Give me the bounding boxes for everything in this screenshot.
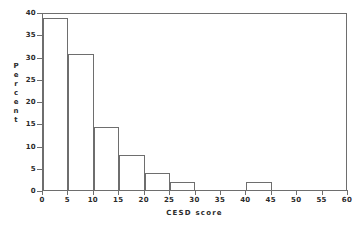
y-axis-tick-label: 40 — [26, 9, 36, 17]
y-axis-tick-label: 15 — [26, 120, 36, 128]
y-axis-tick — [37, 169, 42, 170]
y-axis-tick — [37, 102, 42, 103]
x-axis-tick — [271, 191, 272, 195]
x-axis-tick — [245, 191, 246, 195]
x-axis-tick-label: 40 — [240, 196, 250, 204]
x-axis-tick-label: 45 — [266, 196, 276, 204]
y-axis-tick — [37, 147, 42, 148]
y-axis-title: Percent — [11, 62, 21, 125]
plot-area — [42, 13, 347, 191]
x-axis-tick — [322, 191, 323, 195]
x-axis-tick — [42, 191, 43, 195]
y-axis-tick — [37, 124, 42, 125]
x-axis-tick-label: 50 — [291, 196, 301, 204]
x-axis-tick — [296, 191, 297, 195]
x-axis-tick-label: 0 — [39, 196, 44, 204]
y-axis-tick-label: 25 — [26, 76, 36, 84]
x-axis-tick-label: 25 — [164, 196, 174, 204]
x-axis-tick-label: 15 — [113, 196, 123, 204]
x-axis-tick — [93, 191, 94, 195]
x-axis-tick — [118, 191, 119, 195]
x-axis-tick-label: 5 — [65, 196, 70, 204]
y-axis-tick-label: 5 — [31, 165, 36, 173]
x-axis-tick-label: 35 — [215, 196, 225, 204]
x-axis-title: CESD score — [42, 209, 347, 217]
x-axis-tick-label: 20 — [138, 196, 148, 204]
y-axis-tick — [37, 35, 42, 36]
histogram-bar — [145, 173, 170, 191]
y-axis-title-letter: P — [11, 62, 21, 71]
histogram-bar — [119, 155, 144, 191]
x-axis-tick — [195, 191, 196, 195]
y-axis-title-letter: n — [11, 107, 21, 116]
y-axis-title-letter: t — [11, 116, 21, 125]
histogram-bar — [68, 54, 93, 191]
x-axis-tick-label: 10 — [88, 196, 98, 204]
y-axis-tick — [37, 13, 42, 14]
x-axis-tick — [169, 191, 170, 195]
x-axis-tick-label: 55 — [316, 196, 326, 204]
x-axis-tick-label: 60 — [342, 196, 352, 204]
y-axis-title-letter: c — [11, 89, 21, 98]
y-axis-title-letter: r — [11, 80, 21, 89]
y-axis-tick-label: 30 — [26, 54, 36, 62]
y-axis-tick-label: 20 — [26, 98, 36, 106]
x-axis-tick — [144, 191, 145, 195]
y-axis-title-letter: e — [11, 71, 21, 80]
x-axis-tick — [67, 191, 68, 195]
histogram-bar — [94, 127, 119, 191]
y-axis-tick — [37, 58, 42, 59]
histogram-bar — [43, 18, 68, 191]
y-axis-tick — [37, 80, 42, 81]
x-axis-tick — [220, 191, 221, 195]
y-axis-tick-label: 10 — [26, 143, 36, 151]
y-axis-title-letter: e — [11, 98, 21, 107]
y-axis-tick-label: 35 — [26, 31, 36, 39]
x-axis-tick-label: 30 — [189, 196, 199, 204]
y-axis-tick-label: 0 — [31, 187, 36, 195]
x-axis-tick — [347, 191, 348, 195]
histogram-bars — [43, 14, 346, 191]
histogram-figure: 0510152025303540 05101520253035404550556… — [0, 0, 363, 232]
